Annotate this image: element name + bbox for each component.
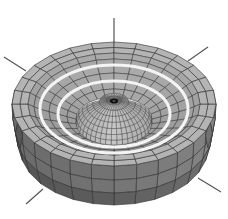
axis-upper-right-line — [188, 47, 208, 61]
surface-plot-canvas — [0, 0, 228, 219]
dome-facet — [117, 140, 123, 145]
outer-wall-facet — [91, 164, 114, 180]
outer-wall-facet — [92, 192, 114, 205]
dome-facet — [117, 134, 123, 140]
dome-facet — [116, 128, 121, 134]
dome-facet — [106, 134, 112, 140]
dome-facet — [112, 122, 117, 128]
axis-lower-left-line — [26, 189, 43, 204]
dome-apex-center — [113, 100, 116, 102]
dome-facet — [111, 140, 117, 145]
outer-wall-facet — [92, 179, 115, 194]
axis-upper-left-line — [4, 57, 26, 71]
dome-facet — [116, 122, 121, 129]
dome-facet — [111, 135, 117, 141]
axis-lower-right-line — [198, 178, 221, 192]
outer-wall-facet — [114, 164, 137, 180]
outer-wall-facet — [114, 192, 136, 205]
outer-wall-facet — [114, 179, 137, 194]
dome-facet — [100, 133, 106, 139]
dome-facet — [112, 116, 116, 122]
dome-facet — [106, 140, 112, 145]
bowl-mesh-figure — [0, 0, 228, 219]
dome-facet — [111, 129, 116, 135]
dome-facet — [122, 133, 128, 139]
